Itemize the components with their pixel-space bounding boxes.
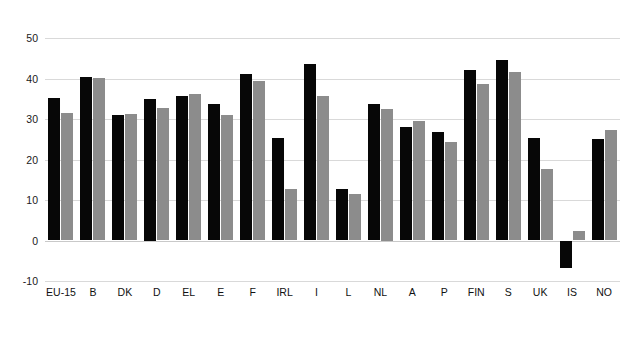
bar-A-series-2 [413,121,425,240]
x-tick-label-P: P [441,286,448,298]
bar-I-series-2 [317,96,329,241]
bar-S-series-2 [509,72,521,240]
bar-EL-series-1 [176,96,188,241]
x-axis-labels: EU-15BDKDELEFIRLILNLAPFINSUKISNO [45,286,620,306]
x-tick-label-NO: NO [596,286,612,298]
x-tick-label-I: I [315,286,318,298]
x-tick-label-FIN: FIN [468,286,485,298]
bar-DK-series-1 [112,115,124,241]
bar-D-series-2 [157,108,169,240]
bar-L-series-1 [336,189,348,241]
bar-UK-series-1 [528,138,540,240]
bar-UK-series-2 [541,169,553,241]
bar-IRL-series-1 [272,138,284,241]
bar-FIN-series-2 [477,84,489,241]
bar-IRL-series-2 [285,189,297,240]
bar-P-series-1 [432,132,444,240]
bar-D-series-1 [144,99,156,241]
bar-B-series-2 [93,78,105,241]
x-tick-label-UK: UK [533,286,548,298]
bar-B-series-1 [80,77,92,240]
bar-IS-series-2 [573,231,585,241]
bar-EU-15-series-1 [48,98,60,241]
bars-layer [45,38,620,281]
bar-E-series-1 [208,104,220,240]
x-tick-label-F: F [249,286,255,298]
bar-NO-series-1 [592,139,604,241]
y-tick-label-10: 10 [4,194,38,206]
bar-NO-series-2 [605,130,617,241]
bar-DK-series-2 [125,114,137,241]
bar-S-series-1 [496,60,508,241]
bar-FIN-series-1 [464,70,476,240]
x-tick-label-A: A [409,286,416,298]
bar-NL-series-1 [368,104,380,240]
y-tick-label-0: 0 [4,235,38,247]
bar-E-series-2 [221,115,233,241]
bar-A-series-1 [400,127,412,241]
x-tick-label-D: D [153,286,161,298]
y-tick-label-30: 30 [4,113,38,125]
y-tick-label-20: 20 [4,154,38,166]
bar-EL-series-2 [189,94,201,240]
bar-IS-series-1 [560,241,572,269]
x-tick-label-B: B [89,286,96,298]
bar-F-series-1 [240,74,252,240]
x-tick-label-DK: DK [118,286,133,298]
bar-chart: EU-15BDKDELEFIRLILNLAPFINSUKISNO 5040302… [0,0,627,350]
x-tick-label-IRL: IRL [276,286,292,298]
x-tick-label-IS: IS [567,286,577,298]
bar-P-series-2 [445,142,457,240]
bar-I-series-1 [304,64,316,241]
y-tick-label--10: -10 [4,275,38,287]
bar-F-series-2 [253,81,265,241]
x-tick-label-NL: NL [374,286,387,298]
bar-L-series-2 [349,194,361,241]
bar-NL-series-2 [381,109,393,241]
x-tick-label-L: L [346,286,352,298]
x-tick-label-EU-15: EU-15 [46,286,76,298]
x-tick-label-EL: EL [182,286,195,298]
y-tick-label-40: 40 [4,73,38,85]
x-tick-label-S: S [505,286,512,298]
plot-area [45,38,620,281]
x-tick-label-E: E [217,286,224,298]
gridline--10 [45,281,620,282]
bar-EU-15-series-2 [61,113,73,241]
y-tick-label-50: 50 [4,32,38,44]
